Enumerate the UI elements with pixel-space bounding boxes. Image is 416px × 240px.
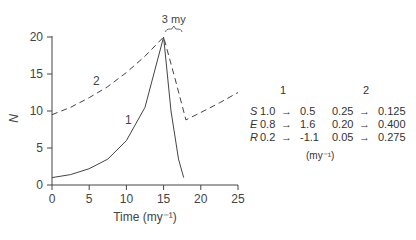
table-unit: (my⁻¹) [306,150,334,161]
col2-from: 0.20 [332,118,353,130]
arrow-icon: → [281,105,292,117]
col1-to: 1.6 [300,118,315,130]
arrow-icon: → [359,105,370,117]
param-label: S [250,105,257,117]
table-header-2: 2 [363,84,369,96]
x-tick-label: 10 [120,192,134,206]
col2-from: 0.25 [332,105,353,117]
x-axis-label: Time (my⁻¹) [113,210,177,224]
col1-to: 0.5 [300,105,315,117]
series-label-2: 2 [93,74,100,88]
col1-to: -1.1 [300,131,319,143]
x-tick-label: 0 [49,192,56,206]
y-tick-label: 15 [30,67,44,81]
param-label: R [250,131,258,143]
arrow-icon: → [281,131,292,143]
col1-from: 0.8 [260,118,275,130]
series-1-line [52,37,184,178]
col2-to: 0.125 [378,105,406,117]
y-axis-label: N [7,114,21,123]
col2-from: 0.05 [332,131,353,143]
table-header-1: 1 [280,84,286,96]
x-tick-label: 5 [86,192,93,206]
arrow-icon: → [359,118,370,130]
y-tick-label: 10 [30,104,44,118]
col1-from: 1.0 [260,105,275,117]
chart-canvas: 051015202505101520Time (my⁻¹)N213 my [0,0,416,240]
y-tick-label: 20 [30,30,44,44]
param-label: E [250,118,257,130]
col1-from: 0.2 [260,131,275,143]
series-label-1: 1 [125,113,132,127]
arrow-icon: → [281,118,292,130]
x-tick-label: 25 [231,192,245,206]
brace-icon [166,26,182,32]
x-tick-label: 15 [157,192,171,206]
col2-to: 0.275 [378,131,406,143]
col2-to: 0.400 [378,118,406,130]
y-tick-label: 5 [36,141,43,155]
y-tick-label: 0 [36,178,43,192]
arrow-icon: → [359,131,370,143]
x-tick-label: 20 [194,192,208,206]
brace-label: 3 my [162,13,186,25]
